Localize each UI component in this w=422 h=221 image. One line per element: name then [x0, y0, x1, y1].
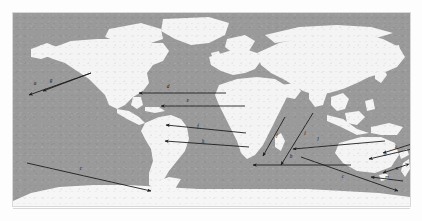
caribbean-islands-land [145, 107, 165, 113]
route-label-i: i [304, 130, 306, 136]
route-arrow-i [281, 113, 313, 165]
philippines-land [365, 99, 375, 111]
route-label-e: e [187, 97, 190, 103]
route-label-c: c [80, 165, 83, 171]
route-label-a: a [34, 80, 37, 86]
south-america-land [141, 115, 189, 189]
indochina-land [331, 93, 349, 111]
figure-container: agdefhcjiblkonmc [0, 0, 422, 221]
route-label-k: k [395, 144, 398, 150]
route-label-l: l [317, 136, 319, 142]
route-label-d: d [167, 83, 170, 89]
scandinavia-land [225, 35, 255, 53]
figure-baseline-rule [13, 208, 410, 209]
central-america-land [117, 109, 145, 125]
route-label-g: g [50, 77, 53, 83]
route-label-n: n [396, 165, 399, 171]
new-guinea-land [371, 123, 403, 135]
map-graphic: agdefhcjiblkonmc [13, 13, 410, 206]
florida-land [131, 97, 143, 109]
route-label-c2: c [342, 173, 345, 179]
route-label-b: b [290, 153, 293, 159]
world-map-panel: agdefhcjiblkonmc [13, 13, 410, 206]
route-label-o: o [384, 151, 387, 157]
antarctica-land [13, 185, 410, 206]
new-zealand-land [401, 159, 410, 177]
route-label-m: m [385, 174, 389, 180]
landmass-group [13, 17, 410, 206]
north-america-land [37, 39, 169, 109]
greenland-land [161, 17, 229, 45]
route-label-h: h [202, 138, 205, 144]
